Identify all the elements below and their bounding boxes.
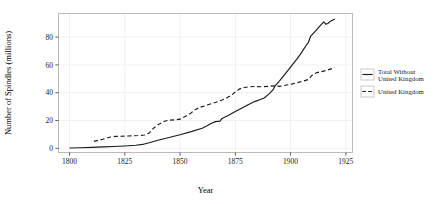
y-tick-label: 20 — [46, 116, 54, 125]
y-tick-label: 40 — [46, 88, 54, 97]
y-tick-label: 0 — [49, 144, 53, 153]
x-tick-label: 1825 — [117, 157, 132, 166]
y-axis-title: Number of Spindles (millions) — [3, 31, 13, 135]
spindles-line-chart: 180018251850187519001925020406080YearNum… — [0, 0, 446, 204]
chart-canvas: 180018251850187519001925020406080YearNum… — [0, 0, 446, 204]
x-tick-label: 1850 — [173, 157, 188, 166]
x-tick-label: 1800 — [62, 157, 77, 166]
y-tick-label: 60 — [46, 61, 54, 70]
x-tick-label: 1875 — [228, 157, 243, 166]
y-tick-label: 80 — [46, 33, 54, 42]
legend-label: United Kingdom — [378, 88, 425, 95]
x-axis-title: Year — [198, 185, 214, 195]
x-tick-label: 1925 — [338, 157, 353, 166]
legend-label: Total Without — [378, 68, 416, 75]
legend-label: United Kingdom — [378, 75, 425, 82]
plot-panel-background — [59, 14, 353, 153]
x-tick-label: 1900 — [283, 157, 298, 166]
